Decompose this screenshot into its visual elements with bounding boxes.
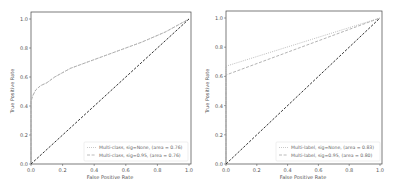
y-axis-label: True Positive Rate (9, 69, 15, 115)
roc-chart-multi-label: 0.0 0.2 0.4 0.6 0.8 1.0 True Positive Ra… (196, 0, 396, 185)
legend-entry: Multi-label, sig=None, (area = 0.83) (291, 145, 374, 150)
y-tick-label: 0.4 (20, 103, 28, 109)
y-tick-label: 0.2 (215, 132, 223, 138)
x-tick-label: 0.2 (253, 167, 261, 173)
x-tick-label: 0.4 (90, 167, 98, 173)
legend-entry: Multi-class, sig=None, (area = 0.76) (99, 145, 183, 150)
y-tick-label: 0.8 (215, 44, 223, 50)
y-tick-label: 0.4 (215, 103, 223, 109)
x-tick-label: 0.6 (122, 167, 130, 173)
x-tick-label: 1.0 (376, 167, 384, 173)
legend: Multi-label, sig=None, (area = 0.83) Mul… (276, 142, 380, 161)
x-axis-label: False Positive Rate (87, 174, 133, 180)
y-tick-label: 0.6 (215, 73, 223, 79)
y-tick-label: 0.8 (20, 45, 28, 51)
x-axis: 0.0 0.2 0.4 0.6 0.8 1.0 False Positive R… (27, 164, 193, 180)
x-tick-label: 0.2 (59, 167, 67, 173)
legend-entry: Multi-label, sig=0.95, (area = 0.80) (291, 153, 373, 158)
plot-area (226, 11, 382, 164)
x-tick-label: 0.4 (284, 167, 292, 173)
x-axis-label: False Positive Rate (280, 174, 326, 180)
x-tick-label: 0.6 (314, 167, 322, 173)
y-tick-label: 1.0 (215, 15, 223, 21)
x-tick-label: 0.0 (27, 167, 35, 173)
legend-entry: Multi-class, sig=0.95, (area = 0.76) (99, 153, 181, 158)
y-tick-label: 1.0 (20, 16, 28, 22)
y-axis-label: True Positive Rate (204, 69, 210, 115)
x-axis: 0.0 0.2 0.4 0.6 0.8 1.0 False Positive R… (222, 164, 384, 180)
y-axis: 0.0 0.2 0.4 0.6 0.8 1.0 True Positive Ra… (9, 16, 31, 167)
x-tick-label: 0.8 (345, 167, 353, 173)
y-axis: 0.0 0.2 0.4 0.6 0.8 1.0 True Positive Ra… (204, 15, 226, 167)
y-tick-label: 0.2 (20, 132, 28, 138)
plot-area (31, 12, 191, 164)
roc-chart-multi-class: 0.0 0.2 0.4 0.6 0.8 1.0 True Positive Ra… (0, 0, 198, 185)
x-tick-label: 0.8 (153, 167, 161, 173)
y-tick-label: 0.6 (20, 74, 28, 80)
x-tick-label: 1.0 (185, 167, 193, 173)
x-tick-label: 0.0 (222, 167, 230, 173)
legend: Multi-class, sig=None, (area = 0.76) Mul… (84, 142, 188, 161)
